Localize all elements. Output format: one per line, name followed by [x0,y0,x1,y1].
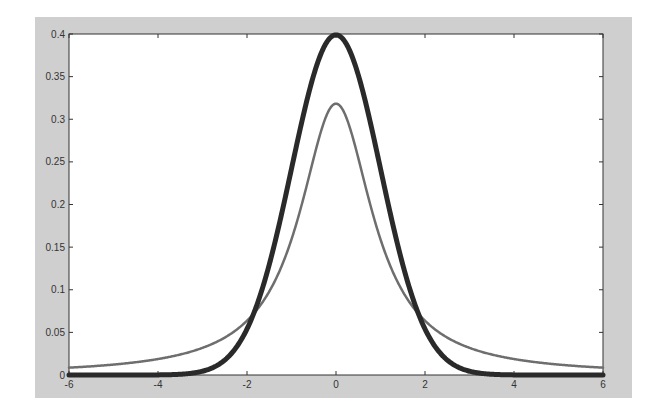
x-tick-label: 2 [422,379,428,390]
figure-background: 00.050.10.150.20.250.30.350.4 -6-4-20246 [35,17,632,398]
x-tick-label: -2 [243,379,252,390]
x-tick-label: -4 [154,379,163,390]
y-tick-label: 0.05 [46,327,66,338]
y-tick-label: 0.1 [51,284,65,295]
x-tick-label: 4 [511,379,517,390]
axes-area [69,34,603,375]
y-tick-label: 0.2 [51,199,65,210]
y-tick-label: 0.35 [46,71,66,82]
x-tick-label: 6 [600,379,606,390]
y-tick-label: 0.4 [51,29,65,40]
plot-svg: 00.050.10.150.20.250.30.350.4 -6-4-20246 [35,17,632,398]
y-tick-label: 0.25 [46,156,66,167]
x-tick-label: -6 [65,379,74,390]
y-tick-label: 0.15 [46,242,66,253]
y-tick-label: 0.3 [51,114,65,125]
x-tick-label: 0 [333,379,339,390]
